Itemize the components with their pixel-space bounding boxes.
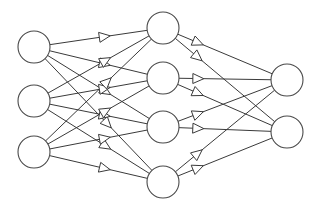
input-node-i3 <box>18 136 50 168</box>
input-node-i1 <box>18 31 50 63</box>
network-nodes <box>18 12 303 198</box>
hidden-node-h1 <box>147 12 179 44</box>
output-node-o1 <box>271 64 303 96</box>
hidden-node-h4 <box>147 166 179 198</box>
arrowhead-icon <box>191 165 203 174</box>
output-node-o2 <box>271 116 303 148</box>
edge-h1-o1 <box>178 34 272 74</box>
hidden-node-h3 <box>147 111 179 143</box>
arrowhead-icon <box>191 36 203 45</box>
connection-arrowheads <box>98 32 203 174</box>
edge-i1-h2 <box>50 51 148 75</box>
edge-i2-h3 <box>50 104 148 124</box>
edge-i3-h1 <box>46 39 152 141</box>
arrowhead-icon <box>191 87 203 96</box>
arrowhead-icon <box>191 50 203 61</box>
hidden-node-h2 <box>147 62 179 94</box>
connection-edges <box>45 30 275 178</box>
arrowhead-icon <box>193 74 204 84</box>
edge-i3-h4 <box>50 156 148 179</box>
edge-h4-o2 <box>178 138 272 176</box>
arrowhead-icon <box>193 123 204 133</box>
arrowhead-icon <box>191 150 203 161</box>
neural-network-diagram <box>0 0 319 212</box>
arrowhead-icon <box>98 162 110 172</box>
input-node-i2 <box>18 85 50 117</box>
arrowhead-icon <box>99 32 111 42</box>
edge-i3-h3 <box>50 130 148 149</box>
arrowhead-icon <box>191 111 203 120</box>
